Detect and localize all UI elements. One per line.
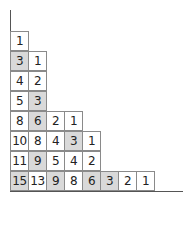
cell: 2: [46, 111, 65, 131]
cell: 5: [46, 151, 65, 171]
cell: 1: [64, 111, 83, 131]
cell: 8: [10, 111, 29, 131]
diagram-row: 1513986321: [10, 171, 154, 191]
cell: 2: [82, 151, 101, 171]
cell: 1: [10, 31, 29, 51]
shaded-cell: 9: [28, 151, 47, 171]
diagram-row: 53: [10, 91, 154, 111]
shaded-cell: 6: [82, 171, 101, 191]
cell: 1: [82, 131, 101, 151]
cell: 8: [64, 171, 83, 191]
shaded-cell: 3: [28, 91, 47, 111]
cell: 1: [28, 51, 47, 71]
diagram-row: 108431: [10, 131, 154, 151]
cell: 4: [64, 151, 83, 171]
cell: 2: [118, 171, 137, 191]
shaded-cell: 9: [46, 171, 65, 191]
shaded-cell: 15: [10, 171, 29, 191]
diagram-row: 31: [10, 51, 154, 71]
cell: 11: [10, 151, 29, 171]
cell: 2: [28, 71, 47, 91]
diagram-row: 1: [10, 31, 154, 51]
shaded-cell: 3: [10, 51, 29, 71]
diagram-row: 8621: [10, 111, 154, 131]
cell: 8: [28, 131, 47, 151]
cell: 1: [136, 171, 155, 191]
diagram-row: 119542: [10, 151, 154, 171]
shaded-cell: 3: [64, 131, 83, 151]
cell: 5: [10, 91, 29, 111]
cell: 13: [28, 171, 47, 191]
horizontal-axis-line: [10, 191, 183, 192]
diagram-row: 42: [10, 71, 154, 91]
shaded-cell: 6: [28, 111, 47, 131]
cell: 4: [46, 131, 65, 151]
cell: 10: [10, 131, 29, 151]
shaded-cell: 3: [100, 171, 119, 191]
cell: 4: [10, 71, 29, 91]
young-diagram: 131425386211084311195421513986321: [10, 31, 154, 191]
